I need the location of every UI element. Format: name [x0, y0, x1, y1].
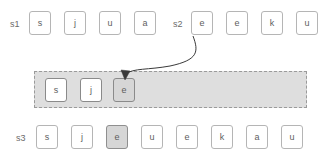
cell-merge-1: j: [80, 78, 102, 102]
cell-letter: k: [270, 19, 275, 28]
cell-letter: j: [90, 86, 92, 95]
cell-letter: e: [234, 19, 239, 28]
cell-letter: k: [220, 133, 225, 142]
cell-letter: s: [54, 86, 59, 95]
cell-s1-1: j: [64, 11, 86, 35]
row-label-s3: s3: [16, 134, 26, 143]
cell-s3-0: s: [36, 125, 58, 149]
cell-s3-1: j: [71, 125, 93, 149]
cell-letter: e: [114, 133, 119, 142]
cell-s2-0: e: [191, 11, 213, 35]
cell-s3-6: a: [246, 125, 268, 149]
cell-letter: e: [121, 86, 126, 95]
cell-s1-0: s: [29, 11, 51, 35]
cell-merge-2: e: [113, 78, 135, 102]
cell-s1-2: u: [99, 11, 121, 35]
cell-s2-1: e: [226, 11, 248, 35]
cell-letter: a: [254, 133, 259, 142]
cell-letter: u: [304, 19, 309, 28]
cell-letter: u: [149, 133, 154, 142]
row-label-s2: s2: [173, 20, 183, 29]
copy-arrow-line: [125, 36, 196, 74]
cell-letter: s: [38, 19, 43, 28]
cell-s3-4: e: [176, 125, 198, 149]
diagram-canvas: s1 s2 s3 sjuaeekusjesjeuekau: [0, 0, 328, 157]
cell-s3-5: k: [211, 125, 233, 149]
cell-letter: j: [74, 19, 76, 28]
cell-s2-2: k: [261, 11, 283, 35]
cell-letter: j: [81, 133, 83, 142]
cell-letter: s: [45, 133, 50, 142]
cell-s3-2: e: [106, 125, 128, 149]
cell-letter: a: [142, 19, 147, 28]
merge-buffer-container: [34, 71, 307, 108]
cell-s3-3: u: [141, 125, 163, 149]
cell-s2-3: u: [296, 11, 318, 35]
cell-letter: e: [184, 133, 189, 142]
cell-merge-0: s: [45, 78, 67, 102]
cell-letter: u: [289, 133, 294, 142]
row-label-s1: s1: [10, 20, 20, 29]
cell-s1-3: a: [134, 11, 156, 35]
cell-letter: e: [199, 19, 204, 28]
cell-letter: u: [107, 19, 112, 28]
cell-s3-7: u: [281, 125, 303, 149]
